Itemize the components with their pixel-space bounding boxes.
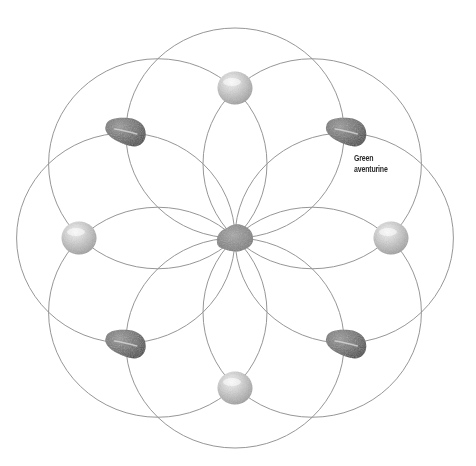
rough-center-stone-icon bbox=[217, 224, 253, 251]
stone-center bbox=[217, 224, 253, 251]
pearl-stone-icon bbox=[373, 222, 408, 255]
stone-bottom-left bbox=[105, 330, 145, 359]
stone-top bbox=[218, 72, 253, 105]
ring-circle bbox=[235, 133, 453, 343]
tumbled-stone-icon bbox=[326, 330, 366, 359]
ring-circle bbox=[126, 28, 344, 238]
pearl-stone-icon bbox=[218, 371, 253, 404]
stone-top-left bbox=[105, 118, 145, 147]
stone-left bbox=[62, 222, 97, 255]
stone-bottom-right bbox=[326, 330, 366, 359]
pearl-highlight bbox=[223, 378, 241, 386]
tumbled-stone-icon bbox=[105, 330, 145, 359]
stone-top-right bbox=[326, 118, 366, 147]
pearl-highlight bbox=[223, 78, 241, 86]
label-line-2: aventurine bbox=[354, 164, 388, 175]
tumbled-stone-icon bbox=[105, 118, 145, 147]
stone-right bbox=[373, 222, 408, 255]
pearl-highlight bbox=[379, 228, 397, 236]
pearl-stone-icon bbox=[62, 222, 97, 255]
ring-circle bbox=[126, 238, 344, 448]
pearl-stone-icon bbox=[218, 72, 253, 105]
pearl-highlight bbox=[67, 228, 85, 236]
label-line-1: Green bbox=[354, 153, 388, 164]
tumbled-stone-icon bbox=[326, 118, 366, 147]
crystal-grid-diagram bbox=[0, 0, 476, 466]
stones-group bbox=[62, 72, 409, 405]
stone-bottom bbox=[218, 371, 253, 404]
stone-label-green-aventurine: Green aventurine bbox=[354, 153, 388, 175]
ring-circle bbox=[17, 133, 235, 343]
